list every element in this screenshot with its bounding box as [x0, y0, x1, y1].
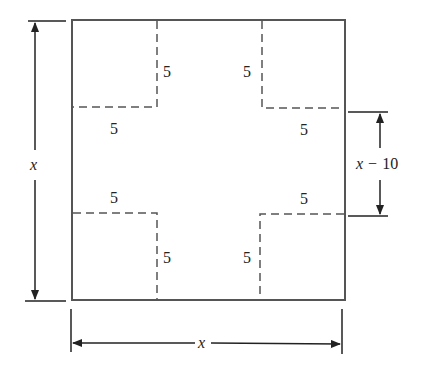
- label-top-right-vertical: 5: [243, 63, 251, 80]
- square-cutout-diagram: 5 5 5 5 5 5 5 5 x x−10 x: [0, 0, 422, 376]
- bottom-dimension: [71, 309, 342, 354]
- label-bottom-right-vertical: 5: [243, 249, 251, 266]
- label-top-right-horizontal: 5: [300, 121, 308, 138]
- label-bottom-left-vertical: 5: [163, 249, 171, 266]
- label-bottom-left-horizontal: 5: [110, 189, 118, 206]
- cut-top-right: [262, 21, 344, 108]
- label-top-left-horizontal: 5: [110, 120, 118, 137]
- cut-top-left: [73, 21, 157, 107]
- label-left-x: x: [29, 156, 37, 173]
- label-bottom-right-horizontal: 5: [300, 190, 308, 207]
- outer-square: [72, 20, 345, 300]
- label-right-x-minus-10: x−10: [355, 155, 398, 172]
- cut-bottom-left: [73, 213, 157, 299]
- cut-bottom-right: [260, 214, 344, 299]
- label-bottom-x: x: [197, 334, 205, 351]
- label-top-left-vertical: 5: [163, 63, 171, 80]
- dashed-cut-lines: [73, 21, 344, 299]
